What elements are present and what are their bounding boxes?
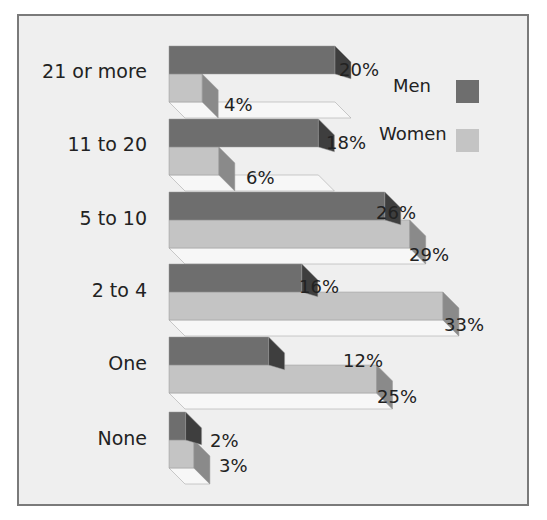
men-bar <box>169 337 269 365</box>
legend-swatch-men <box>456 80 479 103</box>
women-bar <box>169 74 202 102</box>
men-value-label: 12% <box>343 350 383 371</box>
women-bar <box>169 147 219 175</box>
men-bar <box>169 412 186 440</box>
category-label: 21 or more <box>42 60 147 82</box>
category-label: 5 to 10 <box>80 207 147 229</box>
men-bar <box>169 119 318 147</box>
men-bar <box>169 264 302 292</box>
men-value-label: 16% <box>299 276 339 297</box>
women-value-label: 29% <box>409 244 449 265</box>
legend-label-men: Men <box>393 75 431 96</box>
legend-label-women: Women <box>379 123 447 144</box>
bar-floor <box>169 248 426 264</box>
bar-floor <box>169 320 459 336</box>
category-label: 11 to 20 <box>67 133 147 155</box>
category-label: 2 to 4 <box>92 279 147 301</box>
bar-floor <box>169 393 393 409</box>
women-value-label: 4% <box>224 94 253 115</box>
men-value-label: 26% <box>376 202 416 223</box>
women-value-label: 25% <box>377 386 417 407</box>
category-label: None <box>97 427 147 449</box>
men-value-label: 20% <box>339 59 379 80</box>
men-bar <box>169 192 385 220</box>
women-value-label: 3% <box>219 455 248 476</box>
women-value-label: 33% <box>444 314 484 335</box>
men-bar-side <box>269 337 285 370</box>
women-bar <box>169 220 410 248</box>
men-value-label: 18% <box>326 132 366 153</box>
bar-floor <box>169 102 351 118</box>
men-bar <box>169 46 335 74</box>
legend-swatch-women <box>456 129 479 152</box>
men-bar-side <box>186 412 202 445</box>
category-label: One <box>108 352 147 374</box>
women-value-label: 6% <box>246 167 275 188</box>
men-value-label: 2% <box>210 430 239 451</box>
women-bar <box>169 440 194 468</box>
